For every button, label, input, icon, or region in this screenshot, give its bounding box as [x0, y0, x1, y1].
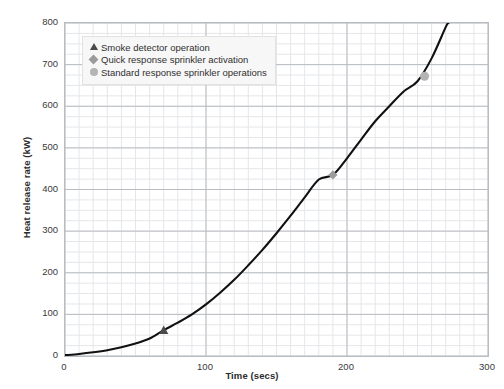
data-point-markers: [159, 72, 429, 334]
triangle-glyph: [90, 43, 98, 50]
y-tick-label: 700: [18, 59, 58, 69]
legend-item: Smoke detector operation: [87, 41, 267, 54]
marker-circle: [420, 72, 429, 81]
y-tick-label: 100: [18, 308, 58, 318]
marker-triangle: [159, 326, 168, 334]
legend-item-label: Smoke detector operation: [100, 42, 210, 53]
diamond-glyph: [89, 55, 99, 65]
diamond-marker-icon: [87, 54, 100, 66]
y-tick-label: 200: [18, 267, 58, 277]
legend-item-label: Standard response sprinkler operations: [100, 67, 267, 78]
x-axis-title: Time (secs): [0, 370, 504, 381]
y-tick-label: 0: [18, 350, 58, 360]
chart-figure: 0100200300400500600700800 0100200300 Hea…: [0, 0, 504, 389]
legend-item-label: Quick response sprinkler activation: [100, 54, 248, 65]
legend: Smoke detector operationQuick response s…: [82, 36, 276, 85]
circle-marker-icon: [87, 66, 100, 78]
legend-item: Quick response sprinkler activation: [87, 54, 267, 67]
triangle-marker-icon: [87, 41, 100, 53]
legend-item: Standard response sprinkler operations: [87, 66, 267, 79]
y-axis-title: Heat release rate (kW): [21, 118, 32, 258]
circle-glyph: [90, 68, 98, 76]
y-tick-label: 800: [18, 17, 58, 27]
y-tick-label: 600: [18, 100, 58, 110]
